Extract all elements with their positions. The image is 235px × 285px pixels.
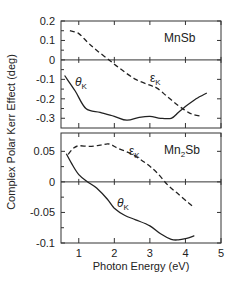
y-tick-label: 0: [49, 176, 55, 188]
y-tick-label: -0.2: [36, 93, 55, 105]
y-tick-label: -0.1: [36, 237, 55, 249]
material-label-mnsb: MnSb: [164, 31, 196, 45]
theta-k-curve: [66, 154, 194, 240]
theta-label-top: θK: [75, 75, 88, 91]
panel-mn2sb: 0.050-0.05-0.1 Mn2Sb εK θK 12345: [30, 133, 224, 259]
material-label-mn2sb: Mn2Sb: [164, 143, 200, 159]
panel-mnsb: 0.20.10-0.1-0.2-0.3 MnSb θK εK: [36, 15, 221, 128]
y-tick-label: 0.1: [40, 34, 55, 46]
series-bottom: [66, 144, 194, 240]
theta-label-bottom: θK: [117, 196, 130, 212]
x-tick-label: 2: [111, 247, 117, 259]
y-tick-label: -0.3: [36, 112, 55, 124]
x-axis-label: Photon Energy (eV): [93, 260, 190, 272]
y-tick-label: 0.2: [40, 15, 55, 27]
x-tick-label: 1: [76, 247, 82, 259]
y-tick-label: -0.1: [36, 73, 55, 85]
epsilon-label-top: εK: [150, 71, 161, 87]
y-axis-label: Complex Polar Kerr Effect (deg): [5, 54, 17, 210]
x-tick-label: 5: [218, 247, 224, 259]
panel-frame-top: [61, 21, 221, 128]
x-tick-label: 4: [182, 247, 188, 259]
y-tick-label: 0: [49, 54, 55, 66]
epsilon-label-bottom: εK: [129, 144, 140, 160]
y-tick-label: -0.05: [30, 206, 55, 218]
x-tick-label: 3: [147, 247, 153, 259]
y-tick-label: 0.05: [34, 145, 55, 157]
kerr-effect-chart: Complex Polar Kerr Effect (deg) 0.20.10-…: [0, 0, 235, 285]
x-ticks: 12345: [76, 247, 224, 259]
